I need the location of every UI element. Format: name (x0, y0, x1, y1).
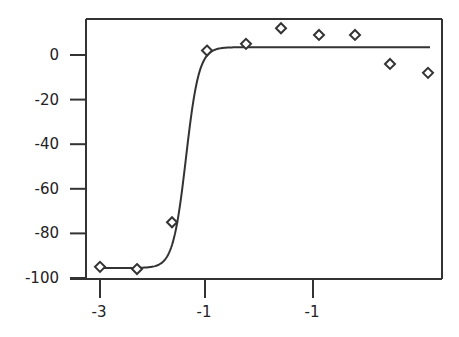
x-axis: -3-1-1 (92, 279, 320, 321)
data-point-marker (95, 262, 105, 272)
data-point-marker (423, 68, 433, 78)
x-tick-label: -3 (92, 303, 107, 321)
y-axis: 0-20-40-60-80-100 (25, 46, 86, 287)
data-markers (95, 23, 433, 274)
x-tick-label: -1 (197, 303, 212, 321)
data-point-marker (167, 217, 177, 227)
y-tick-label: -100 (25, 269, 59, 287)
data-point-marker (202, 46, 212, 56)
plot-frame (70, 19, 442, 279)
y-tick-label: -60 (35, 180, 60, 198)
data-point-marker (350, 30, 360, 40)
x-tick-label: -1 (305, 303, 320, 321)
sigmoid-chart: 0-20-40-60-80-100 -3-1-1 (0, 0, 459, 337)
data-point-marker (132, 264, 142, 274)
data-point-marker (314, 30, 324, 40)
data-point-marker (385, 59, 395, 69)
y-tick-label: -80 (35, 224, 60, 242)
y-tick-label: 0 (49, 46, 59, 64)
fit-curve (100, 47, 430, 268)
data-point-marker (276, 23, 286, 33)
y-tick-label: -20 (35, 91, 60, 109)
y-tick-label: -40 (35, 135, 60, 153)
